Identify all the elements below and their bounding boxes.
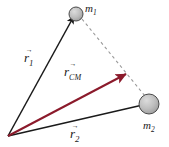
vector-label-rcm-body: rCM [64,65,81,82]
mass-label-m2-base: m [143,119,151,131]
vector-label-rcm: → rCM [64,62,81,82]
vector-label-r1-body: r1 [24,51,33,67]
center-of-mass-diagram: → r1 → rCM → r2 m1 m2 [0,0,169,147]
mass-label-m1-sub: 1 [93,8,97,17]
vector-label-r2-body: r2 [70,127,79,143]
vector-label-rcm-sub: CM [69,73,81,82]
dashed-connector-line [82,19,145,96]
vector-label-r1-sub: 1 [29,58,33,68]
mass-label-m2: m2 [143,120,155,134]
mass-m1-circle [69,7,83,21]
mass-label-m1-base: m [85,2,93,14]
vector-label-r2-sub: 2 [75,134,79,144]
vector-label-r1: → r1 [24,48,33,67]
vector-label-r2: → r2 [70,124,79,143]
mass-label-m2-sub: 2 [151,125,155,134]
mass-label-m1: m1 [85,3,97,17]
mass-m2-circle [139,94,159,114]
